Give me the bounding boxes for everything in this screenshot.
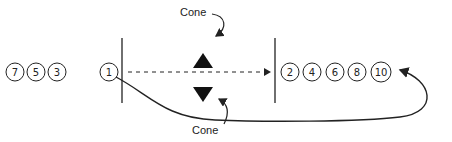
player-number: 1: [106, 67, 112, 78]
player-circle: 4: [303, 63, 321, 81]
player-circle: 5: [27, 63, 45, 81]
player-circle: 8: [348, 63, 366, 81]
cone-top-label: Cone: [180, 6, 206, 18]
left-queue: 7 5 3 1: [6, 63, 118, 81]
player-circle: 1: [100, 63, 118, 81]
player-number: 6: [332, 67, 338, 78]
cone-drill-diagram: 7 5 3 1 2 4 6: [0, 0, 452, 142]
player-number: 7: [12, 67, 18, 78]
player-circle: 10: [371, 62, 391, 82]
player-number: 3: [54, 67, 60, 78]
player-circle: 2: [281, 63, 299, 81]
cone-bottom-label: Cone: [192, 124, 218, 136]
player-number: 5: [33, 67, 39, 78]
cone-bottom-icon: [193, 87, 213, 102]
player-number: 4: [309, 67, 315, 78]
player-number: 8: [354, 67, 360, 78]
player-circle: 6: [326, 63, 344, 81]
player-circle: 7: [6, 63, 24, 81]
player-number: 10: [375, 67, 388, 78]
player-circle: 3: [48, 63, 66, 81]
right-queue: 2 4 6 8 10: [281, 62, 391, 82]
cone-top-icon: [193, 53, 213, 68]
cone-top-pointer-arrow: [212, 14, 224, 36]
player-number: 2: [287, 67, 293, 78]
